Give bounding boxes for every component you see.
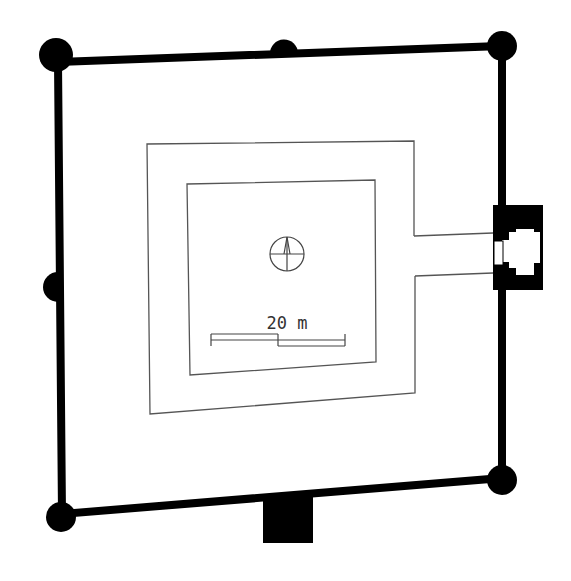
corner-towers <box>39 31 517 532</box>
corridor-top <box>414 233 493 236</box>
corridor-bottom <box>415 273 493 276</box>
tower-bottom-right <box>487 465 517 495</box>
tower-top-left <box>39 38 73 72</box>
gate-tower <box>493 205 543 290</box>
inner-enclosure <box>147 141 493 414</box>
floor-plan: 20 m <box>0 0 571 581</box>
scale-bar-label: 20 m <box>267 313 308 333</box>
scale-bar <box>211 334 345 346</box>
tower-left-mid <box>43 272 58 302</box>
outer-wall <box>58 46 502 514</box>
mid-towers <box>43 39 298 302</box>
tower-top-right <box>487 31 517 61</box>
tower-top-mid <box>270 39 298 54</box>
north-arrow-icon <box>270 237 304 271</box>
bottom-buttress <box>263 495 313 543</box>
tower-bottom-left <box>46 502 76 532</box>
